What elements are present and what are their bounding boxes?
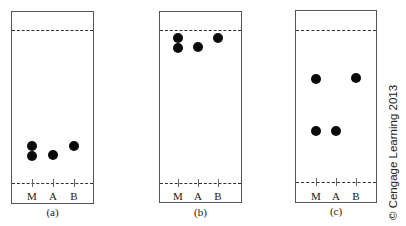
lane-label-b: B <box>67 190 81 202</box>
solvent-front-line <box>160 30 241 31</box>
lane-label-m: M <box>25 190 39 202</box>
spot-m <box>311 74 321 84</box>
lane-label-m: M <box>309 190 323 202</box>
lane-tick-a <box>336 178 337 186</box>
spot-a <box>331 126 341 136</box>
lane-label-b: B <box>211 190 225 202</box>
lane-label-b: B <box>349 190 363 202</box>
lane-tick-b <box>218 179 219 187</box>
lane-tick-m <box>316 178 317 186</box>
spot-b <box>69 141 79 151</box>
plate-caption-c: (c) <box>321 205 351 217</box>
spot-m <box>173 33 183 43</box>
spot-m <box>27 151 37 161</box>
spot-b <box>213 33 223 43</box>
lane-tick-m <box>32 179 33 187</box>
tlc-plate-c: MAB <box>295 10 377 203</box>
spot-a <box>48 150 58 160</box>
lane-tick-a <box>198 179 199 187</box>
spot-b <box>351 73 361 83</box>
lane-tick-m <box>178 179 179 187</box>
lane-tick-a <box>53 179 54 187</box>
solvent-front-line <box>12 30 93 31</box>
solvent-front-line <box>296 30 376 31</box>
tlc-plate-a: MAB <box>11 11 94 204</box>
lane-tick-b <box>356 178 357 186</box>
lane-label-a: A <box>46 190 60 202</box>
spot-a <box>193 42 203 52</box>
spot-m <box>27 141 37 151</box>
lane-label-m: M <box>171 190 185 202</box>
spot-m <box>311 126 321 136</box>
copyright-text: © Cengage Learning 2013 <box>387 85 399 220</box>
baseline-line <box>160 183 241 184</box>
lane-label-a: A <box>329 190 343 202</box>
spot-m <box>173 43 183 53</box>
plate-caption-a: (a) <box>38 206 68 218</box>
lane-label-a: A <box>191 190 205 202</box>
tlc-plate-b: MAB <box>159 11 242 203</box>
lane-tick-b <box>74 179 75 187</box>
plate-caption-b: (b) <box>186 206 216 218</box>
